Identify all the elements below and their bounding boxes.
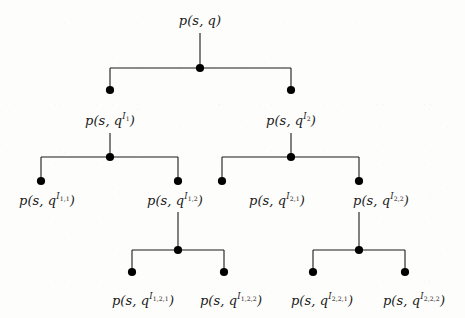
tree-node-dot-n122 bbox=[220, 268, 228, 276]
node-label-base: p(s, q bbox=[112, 293, 149, 308]
node-label-superscript: I2,1 bbox=[286, 191, 300, 201]
node-label-close-paren: ) bbox=[257, 293, 262, 308]
node-label-subscript-index: 2,2 bbox=[394, 194, 404, 201]
node-label-subscript-index: 2,2,1 bbox=[332, 294, 348, 301]
node-label-subscript-index: 2,1 bbox=[290, 194, 300, 201]
node-label-subscript-index: 1,2,2 bbox=[241, 294, 257, 301]
node-label-close-paren: ) bbox=[311, 113, 316, 128]
tree-node-dot-n22 bbox=[355, 177, 363, 185]
edge-group bbox=[41, 33, 405, 272]
node-label-close-paren: ) bbox=[440, 293, 445, 308]
node-label-n21: p(s, qI2,1) bbox=[249, 192, 305, 208]
node-label-superscript: I1,2,2 bbox=[237, 291, 257, 301]
node-label-subscript-index: 2,2,2 bbox=[424, 294, 440, 301]
node-label-base: p(s, q bbox=[147, 193, 184, 208]
node-label-close-paren: ) bbox=[216, 13, 221, 28]
tree-node-dot-n221 bbox=[309, 268, 317, 276]
node-label-subscript-index: 1,1 bbox=[60, 194, 70, 201]
tree-node-dot-root-junction bbox=[196, 64, 204, 72]
node-label-superscript: I1 bbox=[122, 111, 130, 121]
node-label-subscript-index: 1,2,1 bbox=[153, 294, 169, 301]
node-label-n12: p(s, qI1,2) bbox=[147, 192, 203, 208]
node-label-close-paren: ) bbox=[348, 293, 353, 308]
node-label-n2: p(s, qI2) bbox=[266, 112, 316, 128]
tree-node-dot-n121 bbox=[128, 268, 136, 276]
node-label-subscript-index: 1,2 bbox=[188, 194, 198, 201]
node-label-n121: p(s, qI1,2,1) bbox=[112, 292, 174, 308]
tree-node-dot-n1-junction bbox=[106, 153, 114, 161]
node-label-superscript: I1,1 bbox=[56, 191, 70, 201]
node-label-superscript: I2,2,2 bbox=[420, 291, 440, 301]
node-label-base: p(s, q bbox=[85, 113, 122, 128]
node-label-base: p(s, q bbox=[249, 193, 286, 208]
node-dot-group bbox=[37, 64, 409, 276]
node-label-superscript: I2 bbox=[303, 111, 311, 121]
node-label-n11: p(s, qI1,1) bbox=[19, 192, 75, 208]
tree-node-dot-n2 bbox=[287, 86, 295, 94]
tree-diagram-figure: p(s, q)p(s, qI1)p(s, qI2)p(s, qI1,1)p(s,… bbox=[0, 0, 465, 318]
tree-node-dot-n2-junction bbox=[287, 153, 295, 161]
node-label-base: p(s, q bbox=[266, 113, 303, 128]
node-label-superscript: I2,2 bbox=[390, 191, 404, 201]
node-label-close-paren: ) bbox=[70, 193, 75, 208]
node-label-subscript-index: 1 bbox=[126, 114, 130, 121]
node-label-close-paren: ) bbox=[198, 193, 203, 208]
node-label-base: p(s, q bbox=[200, 293, 237, 308]
node-label-n122: p(s, qI1,2,2) bbox=[200, 292, 262, 308]
tree-edges-and-nodes bbox=[0, 0, 465, 318]
node-label-base: p(s, q bbox=[19, 193, 56, 208]
node-label-base: p(s, q bbox=[179, 13, 216, 28]
node-label-superscript: I2,2,1 bbox=[328, 291, 348, 301]
node-label-n1: p(s, qI1) bbox=[85, 112, 135, 128]
tree-node-dot-n21 bbox=[218, 177, 226, 185]
tree-node-dot-n11 bbox=[37, 177, 45, 185]
node-label-close-paren: ) bbox=[300, 193, 305, 208]
node-label-close-paren: ) bbox=[130, 113, 135, 128]
node-label-n22: p(s, qI2,2) bbox=[353, 192, 409, 208]
tree-node-dot-n22-junction bbox=[355, 246, 363, 254]
node-label-root: p(s, q) bbox=[179, 13, 221, 28]
tree-node-dot-n12 bbox=[174, 177, 182, 185]
tree-node-dot-n12-junction bbox=[174, 246, 182, 254]
node-label-base: p(s, q bbox=[383, 293, 420, 308]
tree-node-dot-n222 bbox=[401, 268, 409, 276]
tree-node-dot-n1 bbox=[106, 86, 114, 94]
node-label-base: p(s, q bbox=[291, 293, 328, 308]
node-label-subscript-index: 2 bbox=[307, 114, 311, 121]
node-label-close-paren: ) bbox=[404, 193, 409, 208]
node-label-base: p(s, q bbox=[353, 193, 390, 208]
node-label-superscript: I1,2,1 bbox=[149, 291, 169, 301]
node-label-superscript: I1,2 bbox=[184, 191, 198, 201]
node-label-n222: p(s, qI2,2,2) bbox=[383, 292, 445, 308]
node-label-close-paren: ) bbox=[169, 293, 174, 308]
node-label-n221: p(s, qI2,2,1) bbox=[291, 292, 353, 308]
